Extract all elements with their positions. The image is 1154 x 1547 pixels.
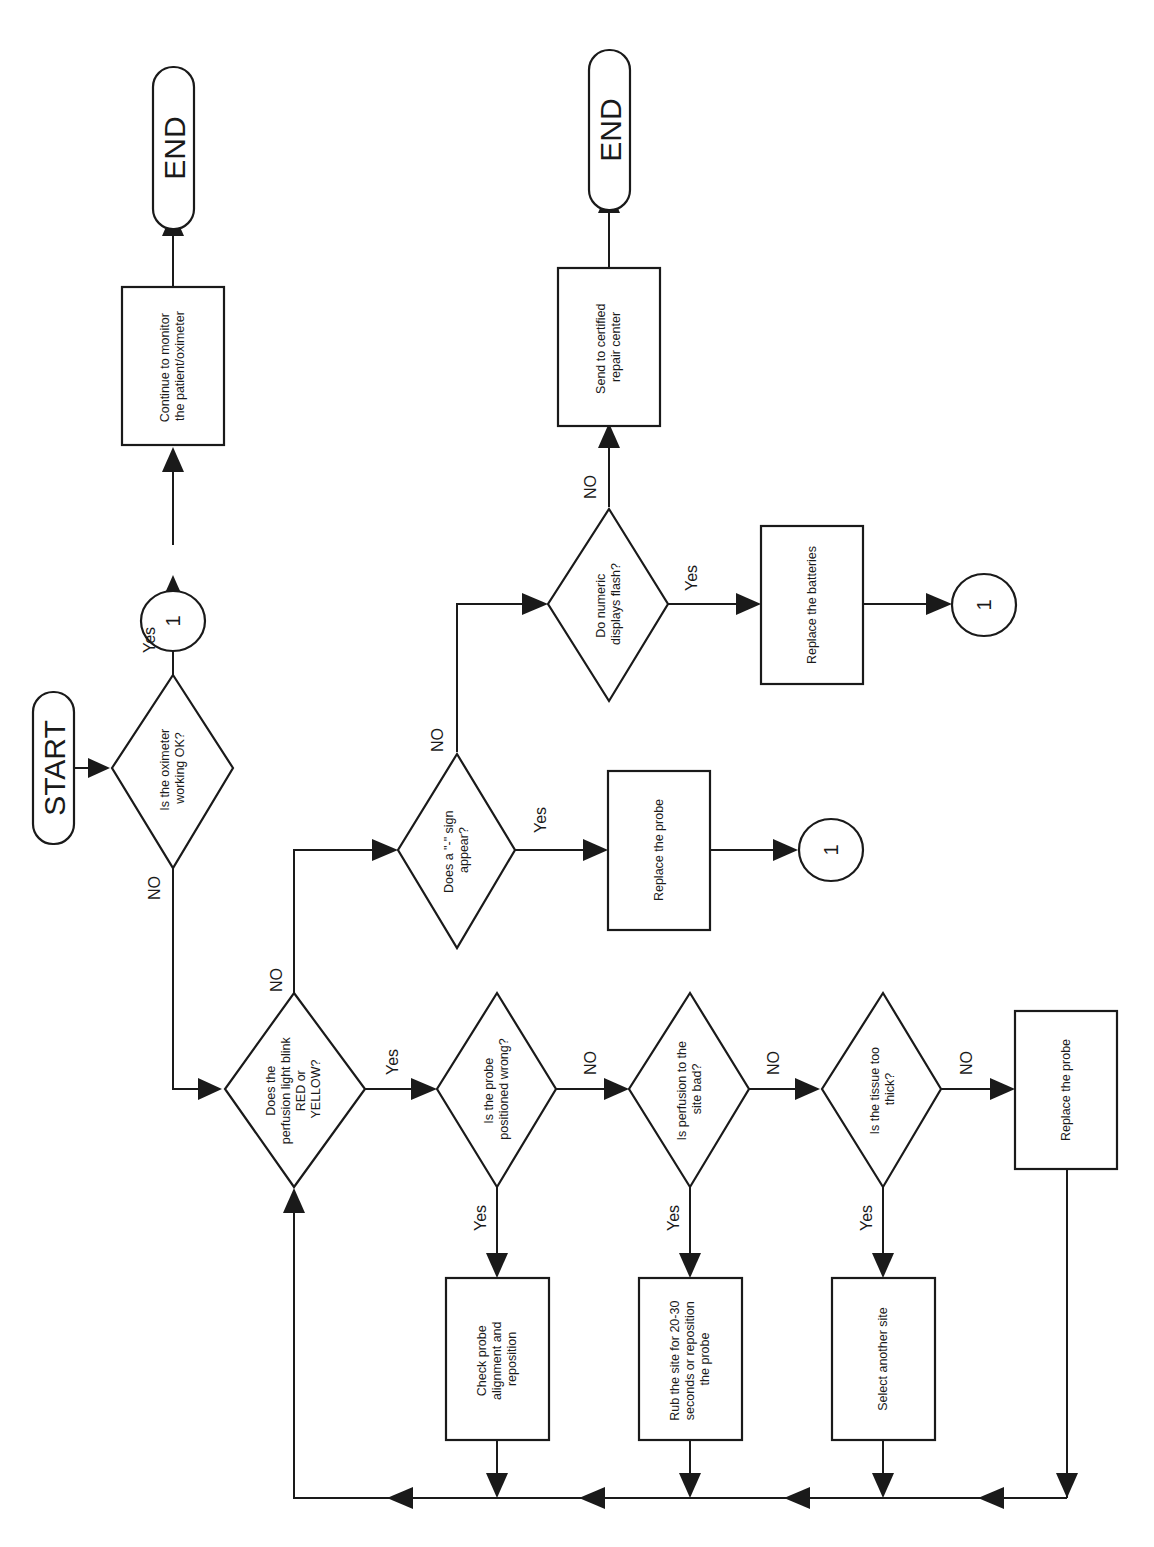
node-text-line: perfusion light blink	[279, 1036, 293, 1144]
node-text-line: Is the probe	[482, 1058, 496, 1124]
arrow-down-icon	[486, 1473, 508, 1498]
svg-text:Replace the batteries: Replace the batteries	[805, 546, 819, 664]
edge-label-no: NO	[582, 1051, 599, 1075]
decision-tissue-thick: Is the tissue too thick?	[822, 993, 941, 1187]
connector-1-right: 1	[952, 574, 1016, 636]
decision-minus-sign: Does a "-" sign appear?	[398, 754, 515, 948]
connector-label: 1	[973, 599, 995, 610]
arrow-right-icon	[926, 593, 952, 615]
edge-label-yes: Yes	[472, 1205, 489, 1231]
connector-label: 1	[162, 615, 184, 626]
decision-probe-positioned: Is the probe positioned wrong?	[437, 993, 556, 1187]
node-text-line: working OK?	[173, 732, 187, 805]
edge-label-no: NO	[582, 475, 599, 499]
process-repair-center: Send to certified repair center	[558, 268, 660, 426]
start-terminal: START	[33, 692, 74, 844]
end-terminal-top: END	[153, 67, 194, 229]
arrow-down-icon	[1056, 1473, 1078, 1498]
arrow-down-icon	[486, 1253, 508, 1278]
edge-label-yes: Yes	[683, 565, 700, 591]
edge-label-yes: Yes	[141, 627, 158, 653]
node-text-line: YELLOW?	[309, 1059, 323, 1118]
node-text-line: Does the	[264, 1066, 278, 1116]
arrow-right-icon	[773, 839, 798, 861]
node-text-line: thick?	[883, 1073, 897, 1106]
process-rub-site: Rub the site for 20-30 seconds or reposi…	[639, 1278, 742, 1440]
arrow-right-icon	[583, 839, 608, 861]
node-text-line: Does a "-" sign	[442, 810, 456, 893]
edge-label-no: NO	[958, 1051, 975, 1075]
connector-1-mid: 1	[799, 819, 863, 881]
node-text-line: seconds or reposition	[683, 1301, 697, 1420]
node-text-line: site bad?	[690, 1064, 704, 1115]
arrow-right-icon	[411, 1078, 437, 1100]
node-text-line: Is perfusion to the	[675, 1041, 689, 1140]
node-text-line: reposition	[505, 1332, 519, 1386]
arrow-left-icon	[579, 1487, 605, 1509]
arrow-down-icon	[872, 1473, 894, 1498]
process-replace-probe-2: Replace the probe	[1015, 1011, 1117, 1169]
svg-text:Replace the probe: Replace the probe	[652, 799, 666, 901]
svg-text:Send to certified repair: Send to certified repair center	[594, 300, 623, 394]
node-text-line: displays flash?	[609, 563, 623, 645]
node-text-line: alignment and	[490, 1321, 504, 1400]
decision-perfusion-light: Does the perfusion light blink RED or YE…	[225, 993, 365, 1187]
process-check-alignment: Check probe alignment and reposition	[446, 1278, 549, 1440]
arrow-down-icon	[872, 1253, 894, 1278]
edge-label-no: NO	[146, 876, 163, 900]
node-text-line: Replace the batteries	[805, 546, 819, 664]
arrow-right-icon	[88, 758, 110, 778]
node-text-line: Select another site	[876, 1307, 890, 1411]
node-text-line: Replace the probe	[652, 799, 666, 901]
node-text-line: Replace the probe	[1059, 1039, 1073, 1141]
arrow-right-icon	[736, 593, 761, 615]
end-terminal-mid: END	[589, 50, 630, 210]
end-label: END	[158, 116, 191, 179]
node-text-line: Rub the site for 20-30	[668, 1301, 682, 1421]
node-text-line: RED or	[294, 1070, 308, 1111]
start-label: START	[38, 720, 71, 816]
node-text-line: Check probe	[475, 1325, 489, 1396]
edge-label-no: NO	[765, 1051, 782, 1075]
node-text-line: Continue to monitor	[158, 313, 172, 422]
process-select-site: Select another site	[832, 1278, 935, 1440]
connector-label: 1	[820, 844, 842, 855]
process-continue-monitor: Continue to monitor the patient/oximeter	[122, 287, 224, 445]
decision-displays-flash: Do numeric displays flash?	[548, 509, 668, 701]
process-replace-batteries: Replace the batteries	[761, 526, 863, 684]
arrow-right-icon	[604, 1078, 629, 1100]
edge-label-yes: Yes	[858, 1205, 875, 1231]
node-text-line: Do numeric	[594, 574, 608, 638]
svg-text:Is the oximeter working: Is the oximeter working OK?	[158, 725, 187, 810]
svg-text:Select another site: Select another site	[876, 1307, 890, 1411]
decision-perfusion-site: Is perfusion to the site bad?	[629, 993, 749, 1187]
node-text-line: the patient/oximeter	[173, 311, 187, 421]
node-text-line: Send to certified	[594, 304, 608, 394]
arrow-down-icon	[679, 1473, 701, 1498]
svg-text:Do numeric displays flas: Do numeric displays flash?	[594, 563, 623, 645]
arrow-down-icon	[679, 1253, 701, 1278]
node-text-line: Is the tissue too	[868, 1047, 882, 1135]
edge-label-yes: Yes	[384, 1049, 401, 1075]
svg-text:Continue to monitor the: Continue to monitor the patient/oximeter	[158, 310, 187, 423]
end-label: END	[594, 98, 627, 161]
process-replace-probe-1: Replace the probe	[608, 771, 710, 930]
node-text-line: Is the oximeter	[158, 729, 172, 811]
edge-label-no: NO	[268, 968, 285, 992]
oximeter-troubleshooting-flowchart: START Is the oximeter working OK? 1 Cont…	[0, 0, 1154, 1547]
arrow-right-icon	[795, 1078, 820, 1100]
arrow-right-icon	[372, 839, 398, 861]
arrow-left-icon	[978, 1487, 1004, 1509]
arrow-up-icon	[283, 1188, 305, 1213]
node-text-line: repair center	[609, 312, 623, 382]
svg-text:Replace the probe: Replace the probe	[1059, 1039, 1073, 1141]
node-text-line: appear?	[457, 827, 471, 873]
arrow-right-icon	[198, 1078, 222, 1100]
arrow-right-icon	[522, 593, 548, 615]
arrow-right-icon	[990, 1078, 1015, 1100]
edge-label-no: NO	[429, 728, 446, 752]
edge-label-yes: Yes	[532, 807, 549, 833]
node-text-line: the probe	[698, 1333, 712, 1386]
arrow-left-icon	[784, 1487, 810, 1509]
arrow-left-icon	[387, 1487, 413, 1509]
